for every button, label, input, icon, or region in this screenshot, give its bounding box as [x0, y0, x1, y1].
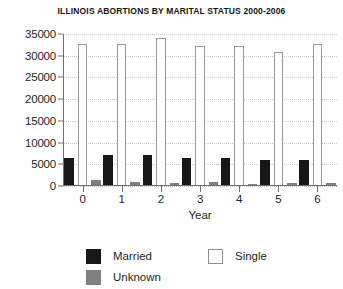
legend-label: Single: [235, 250, 267, 262]
x-axis-label: 1: [119, 193, 125, 205]
white-square-swatch: [208, 249, 223, 264]
y-axis-label: 20000: [25, 93, 56, 105]
chart-legend: MarriedSingleUnknown: [86, 247, 326, 289]
x-axis-title: Year: [63, 209, 337, 221]
x-axis-label: 2: [158, 193, 164, 205]
x-axis-label: 3: [197, 193, 203, 205]
y-axis-label: 10000: [25, 137, 56, 149]
y-axis-label: 0: [50, 180, 56, 192]
x-axis-tick: [278, 186, 279, 192]
x-axis-tick: [122, 186, 123, 192]
x-axis-tick: [317, 186, 318, 192]
y-axis-label: 5000: [31, 158, 56, 170]
x-axis-label: 4: [236, 193, 242, 205]
legend-item-unknown[interactable]: Unknown: [86, 268, 161, 286]
y-axis-label: 30000: [25, 50, 56, 62]
x-axis-tick: [200, 186, 201, 192]
legend-item-single[interactable]: Single: [208, 247, 267, 265]
legend-label: Unknown: [113, 271, 161, 283]
y-axis-label: 35000: [25, 28, 56, 40]
x-axis-label: 5: [275, 193, 281, 205]
gray-square-swatch: [86, 270, 101, 285]
x-axis-tick: [239, 186, 240, 192]
x-axis-label: 6: [314, 193, 320, 205]
x-axis-tick: [161, 186, 162, 192]
legend-item-married[interactable]: Married: [86, 247, 152, 265]
plot-frame: [63, 34, 337, 186]
plot-area: [63, 34, 337, 186]
x-axis-label: 0: [79, 193, 85, 205]
chart-title: ILLINOIS ABORTIONS BY MARITAL STATUS 200…: [0, 6, 343, 16]
y-axis: 05000100001500020000250003000035000: [0, 34, 63, 186]
x-axis-tick: [83, 186, 84, 192]
y-axis-label: 25000: [25, 71, 56, 83]
bar-chart-figure: ILLINOIS ABORTIONS BY MARITAL STATUS 200…: [0, 0, 343, 289]
y-axis-label: 15000: [25, 115, 56, 127]
black-square-swatch: [86, 249, 101, 264]
legend-label: Married: [113, 250, 152, 262]
